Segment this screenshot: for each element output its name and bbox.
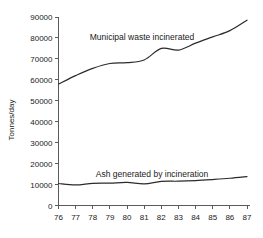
x-tick-label: 78 — [88, 213, 97, 222]
x-tick-label: 79 — [105, 213, 114, 222]
chart-container: 0100002000030000400005000060000700008000… — [0, 0, 263, 238]
y-axis-title: Tonnes/day — [7, 100, 16, 141]
x-tick-label: 84 — [191, 213, 200, 222]
y-tick-label: 60000 — [30, 76, 53, 85]
y-tick-label: 50000 — [30, 97, 53, 106]
series-line-municipal-waste — [59, 20, 248, 84]
y-tick-label: 40000 — [30, 118, 53, 127]
x-tick-label: 85 — [208, 213, 217, 222]
x-tick-label: 82 — [157, 213, 166, 222]
x-tick-label: 77 — [71, 213, 80, 222]
y-tick-label: 0 — [48, 202, 53, 211]
y-tick-label: 90000 — [30, 13, 53, 22]
x-tick-label: 83 — [174, 213, 183, 222]
x-tick-label: 87 — [243, 213, 252, 222]
y-tick-label: 80000 — [30, 34, 53, 43]
y-tick-label: 20000 — [30, 160, 53, 169]
x-axis-ticks: 767778798081828384858687 — [54, 206, 252, 222]
y-tick-label: 30000 — [30, 139, 53, 148]
x-tick-label: 81 — [140, 213, 149, 222]
x-tick-label: 80 — [123, 213, 132, 222]
series-label-ash-generated: Ash generated by incineration — [96, 169, 209, 179]
y-tick-label: 70000 — [30, 55, 53, 64]
line-chart: 0100002000030000400005000060000700008000… — [0, 0, 263, 238]
series-label-municipal-waste: Municipal waste incinerated — [90, 32, 195, 42]
x-tick-label: 76 — [54, 213, 63, 222]
y-tick-label: 10000 — [30, 181, 53, 190]
y-axis-ticks: 0100002000030000400005000060000700008000… — [30, 13, 58, 211]
x-tick-label: 86 — [225, 213, 234, 222]
